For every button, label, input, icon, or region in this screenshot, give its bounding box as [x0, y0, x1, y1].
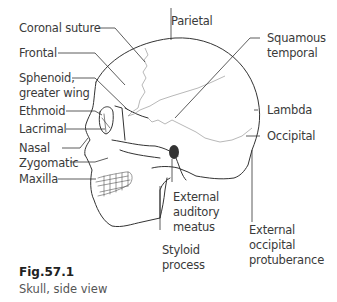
label-ext-occipital-3: protuberance [249, 253, 324, 267]
label-squamous-2: temporal [267, 46, 318, 60]
label-lambda: Lambda [267, 103, 312, 117]
label-coronal-suture: Coronal suture [19, 21, 101, 35]
label-lacrimal: Lacrimal [19, 122, 67, 136]
label-ext-occipital-1: External [249, 223, 295, 237]
figure-caption: Skull, side view [19, 282, 107, 296]
label-ethmoid: Ethmoid [19, 104, 65, 118]
label-occipital: Occipital [267, 129, 315, 143]
label-sphenoid-1: Sphenoid, [19, 71, 75, 85]
label-frontal: Frontal [19, 46, 57, 60]
label-zygomatic: Zygomatic [19, 156, 79, 170]
label-styloid-2: process [162, 258, 205, 272]
cranium-outline [96, 38, 260, 179]
label-squamous-1: Squamous [267, 31, 326, 45]
ear-canal [169, 145, 179, 159]
label-nasal: Nasal [19, 141, 50, 155]
figure-number: Fig.57.1 [19, 265, 74, 279]
label-ext-auditory-1: External [173, 190, 219, 204]
label-styloid-1: Styloid [162, 243, 200, 257]
label-sphenoid-2: greater wing [19, 86, 90, 100]
label-maxilla: Maxilla [19, 172, 58, 186]
label-ext-occipital-2: occipital [249, 238, 295, 252]
label-ext-auditory-2: auditory [173, 205, 219, 219]
label-ext-auditory-3: meatus [173, 220, 215, 234]
label-parietal: Parietal [171, 14, 213, 28]
